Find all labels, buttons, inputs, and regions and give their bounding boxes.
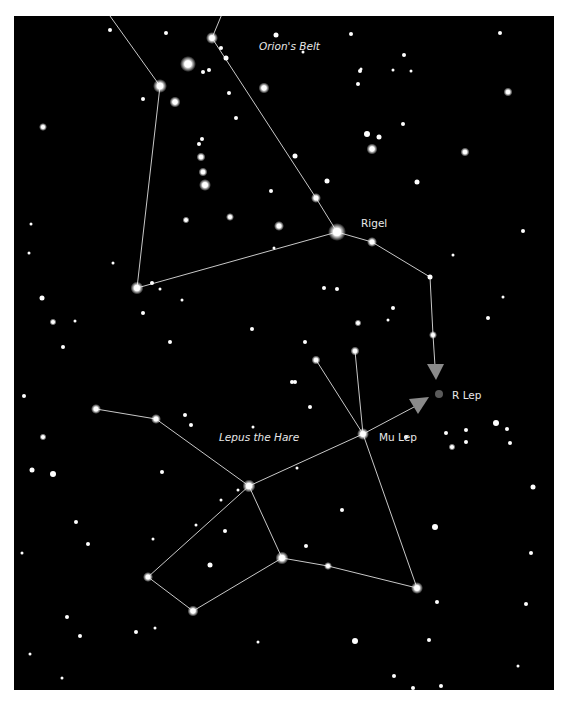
star-core bbox=[41, 435, 44, 438]
star bbox=[293, 380, 297, 384]
star bbox=[141, 97, 145, 101]
star-core bbox=[228, 215, 232, 219]
star bbox=[402, 53, 406, 57]
constellation-lines bbox=[96, 14, 435, 611]
star bbox=[529, 551, 533, 555]
star bbox=[439, 684, 443, 688]
star-core bbox=[506, 90, 510, 94]
star bbox=[325, 179, 330, 184]
star bbox=[387, 319, 390, 322]
star bbox=[358, 69, 362, 73]
arrow-head-down bbox=[427, 364, 444, 380]
star bbox=[154, 627, 157, 630]
star bbox=[257, 641, 260, 644]
star bbox=[40, 296, 45, 301]
r-lep-label: R Lep bbox=[452, 389, 482, 401]
star bbox=[391, 306, 395, 310]
star-core bbox=[356, 321, 359, 324]
star bbox=[50, 471, 56, 477]
star bbox=[21, 552, 24, 555]
star bbox=[112, 262, 115, 265]
star bbox=[531, 485, 536, 490]
star bbox=[29, 653, 32, 656]
star bbox=[464, 428, 468, 432]
star bbox=[22, 394, 26, 398]
star bbox=[428, 275, 433, 280]
star bbox=[273, 247, 276, 250]
star bbox=[308, 405, 312, 409]
star-core bbox=[184, 218, 187, 221]
star-core bbox=[246, 483, 252, 489]
star bbox=[189, 423, 193, 427]
star-core bbox=[314, 358, 318, 362]
constellation-line bbox=[316, 360, 363, 434]
star-core bbox=[157, 83, 163, 89]
star-chart: Orion's Belt Rigel Lepus the Hare Mu Lep… bbox=[0, 0, 567, 704]
star-hop-arrows bbox=[409, 364, 444, 414]
r-lep-marker bbox=[435, 390, 443, 398]
star bbox=[74, 520, 78, 524]
star bbox=[61, 345, 65, 349]
star-core bbox=[370, 147, 375, 152]
star bbox=[181, 299, 184, 302]
star bbox=[220, 499, 223, 502]
star-core bbox=[134, 285, 140, 291]
constellation-line bbox=[110, 14, 337, 288]
star bbox=[207, 68, 211, 72]
star bbox=[61, 677, 64, 680]
star-core bbox=[209, 35, 214, 40]
star bbox=[432, 524, 438, 530]
star bbox=[269, 189, 273, 193]
star bbox=[410, 70, 413, 73]
star bbox=[108, 28, 112, 32]
star bbox=[524, 602, 528, 606]
star bbox=[86, 542, 90, 546]
star bbox=[392, 69, 395, 72]
stars bbox=[21, 28, 536, 690]
star bbox=[201, 70, 205, 74]
star bbox=[30, 223, 33, 226]
constellation-line bbox=[148, 434, 417, 611]
star-core bbox=[314, 196, 319, 201]
mu-lep-label: Mu Lep bbox=[379, 431, 417, 443]
star bbox=[349, 32, 353, 36]
star-core bbox=[414, 585, 419, 590]
star bbox=[356, 82, 360, 86]
constellation-line bbox=[337, 232, 435, 366]
star bbox=[168, 340, 172, 344]
star bbox=[224, 56, 229, 61]
star-core bbox=[431, 333, 435, 337]
star bbox=[521, 229, 525, 233]
star-core bbox=[202, 182, 207, 187]
star bbox=[234, 116, 238, 120]
star bbox=[493, 420, 499, 426]
star bbox=[322, 286, 326, 290]
star bbox=[134, 630, 138, 634]
arrow-head-diagonal bbox=[409, 397, 429, 414]
star bbox=[335, 287, 339, 291]
star bbox=[435, 600, 439, 604]
star bbox=[30, 468, 35, 473]
star bbox=[296, 467, 299, 470]
star-core bbox=[450, 445, 453, 448]
star bbox=[364, 131, 370, 137]
star bbox=[74, 320, 77, 323]
star-core bbox=[51, 320, 54, 323]
star-core bbox=[199, 155, 203, 159]
star bbox=[304, 544, 308, 548]
star-core bbox=[333, 228, 341, 236]
star-core bbox=[370, 240, 375, 245]
star bbox=[160, 470, 164, 474]
star bbox=[237, 489, 240, 492]
star-core bbox=[184, 60, 191, 67]
star bbox=[401, 122, 405, 126]
star bbox=[223, 529, 227, 533]
star bbox=[197, 142, 201, 146]
star-core bbox=[353, 349, 357, 353]
star bbox=[274, 33, 279, 38]
star-core bbox=[191, 609, 196, 614]
star bbox=[141, 311, 145, 315]
star bbox=[377, 135, 382, 140]
star bbox=[452, 254, 455, 257]
star bbox=[340, 508, 344, 512]
